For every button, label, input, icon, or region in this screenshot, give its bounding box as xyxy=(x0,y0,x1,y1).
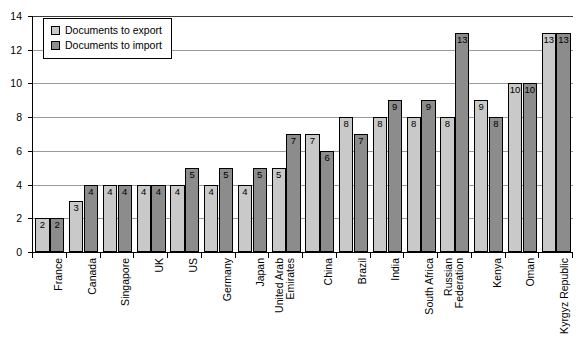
x-axis-label: RussianFederation xyxy=(443,258,465,308)
x-axis-label: France xyxy=(53,258,64,291)
bar-import: 7 xyxy=(354,134,368,252)
x-tick-mark xyxy=(133,253,134,258)
bar-export: 8 xyxy=(407,117,421,252)
bar-value-label: 8 xyxy=(374,119,386,129)
bar-import: 10 xyxy=(523,83,537,252)
x-axis-label: Brazil xyxy=(357,258,368,284)
bar-value-label: 8 xyxy=(490,119,502,129)
x-tick-mark xyxy=(437,253,438,258)
bar-value-label: 7 xyxy=(306,136,318,146)
x-tick-mark xyxy=(572,253,573,258)
bar-export: 4 xyxy=(170,185,184,252)
chart-legend: Documents to exportDocuments to import xyxy=(43,18,172,59)
bar-value-label: 13 xyxy=(456,35,468,45)
x-tick-mark xyxy=(235,253,236,258)
x-axis-label: China xyxy=(323,258,334,285)
legend-swatch-import-icon xyxy=(51,41,60,50)
legend-swatch-export-icon xyxy=(51,26,60,35)
x-axis-label: Germany xyxy=(222,258,233,301)
bar-value-label: 7 xyxy=(287,136,299,146)
bar-import: 4 xyxy=(118,185,132,252)
bar-import: 9 xyxy=(388,100,402,252)
bar-value-label: 8 xyxy=(340,119,352,129)
bar-group: 57 xyxy=(269,16,303,252)
x-axis-label-line: Emirates xyxy=(285,258,296,313)
bar-value-label: 4 xyxy=(152,187,164,197)
y-tick-label: 12 xyxy=(10,44,22,55)
y-tick-label: 14 xyxy=(10,11,22,22)
x-axis-label: India xyxy=(390,258,401,281)
bar-import: 4 xyxy=(84,185,98,252)
bar-import: 5 xyxy=(253,168,267,252)
x-axis-label-line: Federation xyxy=(454,258,465,308)
bar-value-label: 5 xyxy=(254,170,266,180)
x-axis-label: United ArabEmirates xyxy=(274,258,296,313)
bar-import: 5 xyxy=(185,168,199,252)
bar-value-label: 9 xyxy=(422,102,434,112)
bar-value-label: 4 xyxy=(239,187,251,197)
bar-import: 7 xyxy=(286,134,300,252)
bar-group: 89 xyxy=(404,16,438,252)
x-tick-mark xyxy=(403,253,404,258)
x-axis-label: UK xyxy=(154,258,165,273)
bar-export: 4 xyxy=(238,185,252,252)
bar-import: 8 xyxy=(489,117,503,252)
bar-value-label: 4 xyxy=(85,187,97,197)
x-axis-label: Japan xyxy=(255,258,266,287)
x-axis-label: Oman xyxy=(525,258,536,287)
bar-group: 89 xyxy=(371,16,405,252)
bar-value-label: 5 xyxy=(186,170,198,180)
y-axis: 02468101214 xyxy=(0,0,28,341)
bar-export: 3 xyxy=(69,201,83,252)
bar-group: 98 xyxy=(472,16,506,252)
x-axis-label: Canada xyxy=(87,258,98,295)
x-tick-mark xyxy=(336,253,337,258)
bar-value-label: 2 xyxy=(51,220,63,230)
bar-value-label: 4 xyxy=(104,187,116,197)
bar-group: 1010 xyxy=(506,16,540,252)
bar-export: 2 xyxy=(35,218,49,252)
bar-import: 9 xyxy=(421,100,435,252)
bar-value-label: 10 xyxy=(524,85,536,95)
bar-value-label: 2 xyxy=(36,220,48,230)
y-tick-label: 10 xyxy=(10,78,22,89)
y-tick-label: 2 xyxy=(16,213,22,224)
bar-value-label: 5 xyxy=(273,170,285,180)
legend-item-import: Documents to import xyxy=(51,38,162,53)
legend-label: Documents to export xyxy=(65,25,162,36)
bar-export: 4 xyxy=(103,185,117,252)
bar-value-label: 13 xyxy=(543,35,555,45)
bar-value-label: 4 xyxy=(171,187,183,197)
bar-import: 6 xyxy=(320,151,334,252)
x-tick-mark xyxy=(167,253,168,258)
x-axis-label: Kenya xyxy=(492,258,503,288)
bar-group: 45 xyxy=(202,16,236,252)
y-tick-label: 0 xyxy=(16,247,22,258)
y-tick-label: 4 xyxy=(16,179,22,190)
bar-export: 7 xyxy=(305,134,319,252)
bar-import: 13 xyxy=(455,33,469,252)
bar-export: 8 xyxy=(373,117,387,252)
x-tick-mark xyxy=(100,253,101,258)
bar-chart: 02468101214 2234444445454557768789898139… xyxy=(0,0,578,341)
bar-value-label: 7 xyxy=(355,136,367,146)
bar-group: 76 xyxy=(303,16,337,252)
y-tick-label: 8 xyxy=(16,112,22,123)
x-tick-mark xyxy=(302,253,303,258)
bar-value-label: 13 xyxy=(557,35,569,45)
bar-import: 2 xyxy=(50,218,64,252)
bar-group: 1313 xyxy=(539,16,573,252)
bar-export: 4 xyxy=(204,185,218,252)
x-tick-mark xyxy=(538,253,539,258)
bar-value-label: 4 xyxy=(205,187,217,197)
x-tick-mark xyxy=(268,253,269,258)
x-axis-labels: FranceCanadaSingaporeUKUSGermanyJapanUni… xyxy=(32,258,572,341)
x-tick-mark xyxy=(66,253,67,258)
bar-import: 4 xyxy=(151,185,165,252)
bar-value-label: 8 xyxy=(408,119,420,129)
legend-label: Documents to import xyxy=(65,40,162,51)
bar-export: 13 xyxy=(542,33,556,252)
bar-value-label: 6 xyxy=(321,153,333,163)
x-tick-mark xyxy=(201,253,202,258)
bar-export: 8 xyxy=(440,117,454,252)
